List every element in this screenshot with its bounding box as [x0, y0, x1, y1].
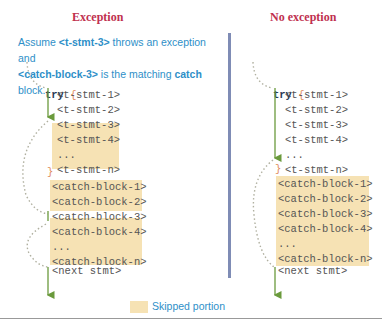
flow-arrows: [0, 0, 382, 325]
legend-swatch: [130, 301, 148, 313]
legend-label: Skipped portion: [152, 300, 225, 312]
dotted-flow: [253, 62, 272, 88]
skip-jump-arrow: [27, 224, 48, 267]
dotted-flow: [27, 62, 46, 88]
skip-jump-arrow: [23, 121, 48, 214]
bottom-rule: [0, 318, 382, 319]
skip-jump-arrow: [253, 160, 274, 267]
